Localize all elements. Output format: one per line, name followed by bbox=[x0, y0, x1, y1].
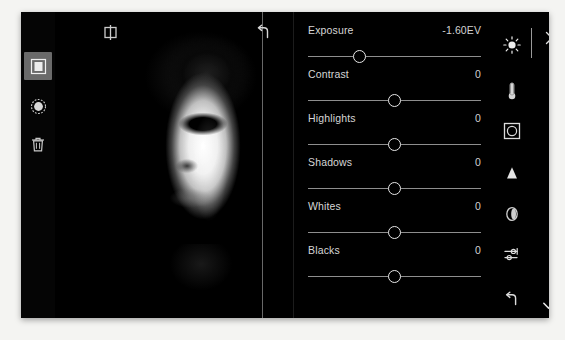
thermometer-icon bbox=[505, 82, 519, 105]
slider-track-wrap[interactable] bbox=[308, 50, 481, 64]
rail-item-reset[interactable] bbox=[499, 288, 525, 314]
rail-item-color-adjust[interactable] bbox=[499, 80, 525, 106]
rail-item-effects[interactable] bbox=[499, 244, 525, 270]
square-filter-icon bbox=[30, 58, 47, 75]
slider-track-wrap[interactable] bbox=[308, 94, 481, 108]
slider-blacks[interactable]: Blacks 0 bbox=[294, 244, 493, 288]
slider-header: Shadows 0 bbox=[308, 156, 481, 173]
photo-editor-window: Exposure -1.60EV Contrast 0 bbox=[21, 12, 549, 318]
slider-shadows[interactable]: Shadows 0 bbox=[294, 156, 493, 200]
left-tool-rail bbox=[21, 12, 55, 318]
slider-exposure[interactable]: Exposure -1.60EV bbox=[294, 24, 493, 68]
photo-neck-region bbox=[165, 244, 260, 318]
sun-icon bbox=[503, 36, 521, 58]
triangle-icon bbox=[504, 165, 520, 185]
slider-track-wrap[interactable] bbox=[308, 270, 481, 284]
sidebar-item-filter-tool[interactable] bbox=[24, 52, 52, 80]
photo-highlight-region bbox=[183, 82, 253, 257]
screenshot-root: Exposure -1.60EV Contrast 0 bbox=[0, 0, 565, 340]
close-button[interactable] bbox=[541, 29, 549, 51]
slider-label: Whites bbox=[308, 200, 341, 212]
undo-arrow-icon[interactable] bbox=[253, 21, 275, 43]
slider-thumb[interactable] bbox=[388, 94, 401, 107]
checkmark-icon bbox=[542, 295, 549, 315]
slider-value: 0 bbox=[475, 112, 481, 124]
adjustment-panel: Exposure -1.60EV Contrast 0 bbox=[293, 12, 493, 318]
rail-item-geometry[interactable] bbox=[499, 162, 525, 188]
sidebar-item-radial-gradient-tool[interactable] bbox=[24, 92, 52, 120]
slider-track[interactable] bbox=[308, 56, 481, 57]
rail-item-light-adjust[interactable] bbox=[499, 34, 525, 60]
vignette-frame-icon bbox=[503, 122, 521, 144]
right-icon-rail bbox=[493, 12, 549, 318]
rail-divider bbox=[531, 28, 532, 58]
slider-label: Exposure bbox=[308, 24, 354, 36]
slider-label: Shadows bbox=[308, 156, 352, 168]
sliders-icon bbox=[503, 246, 521, 268]
compare-split-icon[interactable] bbox=[99, 21, 121, 43]
slider-thumb[interactable] bbox=[388, 182, 401, 195]
slider-label: Contrast bbox=[308, 68, 349, 80]
slider-contrast[interactable]: Contrast 0 bbox=[294, 68, 493, 112]
slider-value: 0 bbox=[475, 244, 481, 256]
slider-value: 0 bbox=[475, 200, 481, 212]
close-x-icon bbox=[545, 31, 549, 49]
image-canvas[interactable] bbox=[55, 12, 293, 318]
slider-header: Highlights 0 bbox=[308, 112, 481, 129]
confirm-button[interactable] bbox=[539, 293, 549, 317]
rail-item-lens-blur[interactable] bbox=[499, 203, 525, 229]
slider-header: Blacks 0 bbox=[308, 244, 481, 261]
slider-track-wrap[interactable] bbox=[308, 138, 481, 152]
slider-label: Blacks bbox=[308, 244, 340, 256]
slider-label: Highlights bbox=[308, 112, 356, 124]
before-after-divider[interactable] bbox=[262, 12, 263, 318]
slider-value: 0 bbox=[475, 68, 481, 80]
slider-thumb[interactable] bbox=[353, 50, 366, 63]
slider-thumb[interactable] bbox=[388, 270, 401, 283]
radial-gradient-icon bbox=[30, 98, 47, 115]
rail-item-vignette[interactable] bbox=[499, 120, 525, 146]
slider-highlights[interactable]: Highlights 0 bbox=[294, 112, 493, 156]
trash-icon bbox=[30, 136, 46, 153]
slider-value: -1.60EV bbox=[442, 24, 481, 36]
slider-track-wrap[interactable] bbox=[308, 226, 481, 240]
slider-whites[interactable]: Whites 0 bbox=[294, 200, 493, 244]
slider-thumb[interactable] bbox=[388, 226, 401, 239]
undo-arrow-icon bbox=[503, 290, 521, 312]
slider-header: Whites 0 bbox=[308, 200, 481, 217]
slider-track-wrap[interactable] bbox=[308, 182, 481, 196]
slider-thumb[interactable] bbox=[388, 138, 401, 151]
slider-header: Exposure -1.60EV bbox=[308, 24, 481, 41]
slider-header: Contrast 0 bbox=[308, 68, 481, 85]
lens-icon bbox=[503, 206, 521, 226]
slider-value: 0 bbox=[475, 156, 481, 168]
photo-preview bbox=[55, 12, 293, 318]
sidebar-item-delete-tool[interactable] bbox=[24, 130, 52, 158]
